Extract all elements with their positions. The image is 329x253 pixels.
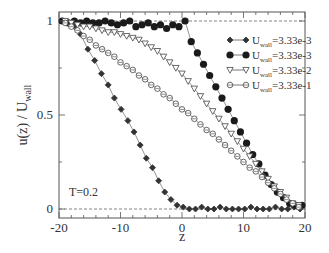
legend-item-3: Uwall=3.33e-2: [227, 64, 312, 79]
y-tick-label: 0: [47, 201, 54, 216]
legend-label: Uwall=3.33e-2: [252, 64, 312, 79]
y-axis-title: u(z) / Uwall: [15, 84, 33, 145]
x-tick-label: -20: [50, 220, 67, 235]
x-tick-label: 20: [299, 220, 312, 235]
legend-label: Uwall=3.33e-3: [252, 49, 312, 64]
legend-label: Uwall=3.33e-1: [252, 79, 312, 94]
legend: Uwall=3.33e-3Uwall=3.33e-3Uwall=3.33e-2U…: [226, 34, 312, 94]
legend-label: Uwall=3.33e-3: [252, 34, 312, 49]
legend-item-2: Uwall=3.33e-3: [226, 49, 312, 64]
y-tick-label: 1: [47, 13, 54, 28]
legend-item-1: Uwall=3.33e-3: [227, 34, 312, 49]
chart: -20-100102000.51 z u(z) / Uwall T=0.2 Uw…: [0, 0, 329, 253]
x-tick-label: -10: [112, 220, 129, 235]
legend-item-4: Uwall=3.33e-1: [227, 79, 311, 94]
x-tick-label: 10: [237, 220, 250, 235]
y-tick-label: 0.5: [37, 107, 53, 122]
x-axis-title: z: [179, 229, 185, 244]
temperature-annotation: T=0.2: [69, 185, 98, 199]
